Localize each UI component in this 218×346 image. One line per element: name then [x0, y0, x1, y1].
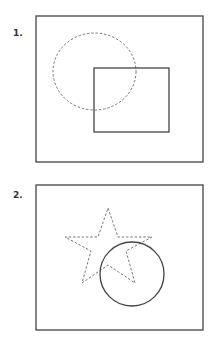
diagram-canvas — [0, 0, 218, 346]
panel-1-solid-rectangle — [94, 68, 169, 132]
panel-1-frame — [36, 16, 203, 162]
panel-2-dashed-star — [65, 208, 152, 283]
panel-2-frame — [36, 185, 203, 330]
panel-2-solid-circle — [100, 242, 164, 306]
